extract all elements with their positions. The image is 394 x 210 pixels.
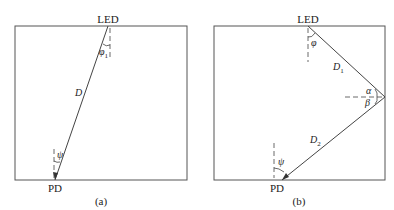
pd-label-a: PD xyxy=(48,182,62,194)
diagram-canvas: LED φ1 D ψ PD (a) LED φ D1 α β D2 xyxy=(0,0,394,210)
room-outline-b xyxy=(214,26,385,180)
led-label-b: LED xyxy=(297,13,318,25)
arrowhead-b xyxy=(282,173,289,180)
psi-arc-a xyxy=(54,161,60,162)
phi-label-b: φ xyxy=(311,37,317,48)
reflect-path-d2 xyxy=(282,97,385,180)
led-label-a: LED xyxy=(97,13,118,25)
psi-arc-b xyxy=(274,168,284,172)
caption-b: (b) xyxy=(293,195,306,208)
panel-b: LED φ D1 α β D2 ψ PD (b) xyxy=(214,13,385,208)
reflect-path-d1 xyxy=(308,26,385,97)
caption-a: (a) xyxy=(95,195,108,208)
psi-label-b: ψ xyxy=(278,156,285,167)
pd-label-b: PD xyxy=(270,182,284,194)
alpha-label-b: α xyxy=(366,85,372,96)
d1-label-b: D1 xyxy=(332,61,344,75)
distance-label-a: D xyxy=(74,87,83,98)
phi-label-a: φ1 xyxy=(99,46,109,60)
panel-a: LED φ1 D ψ PD (a) xyxy=(15,13,187,208)
d2-label-b: D2 xyxy=(309,134,321,148)
beta-label-b: β xyxy=(364,97,370,108)
psi-label-a: ψ xyxy=(57,149,64,160)
